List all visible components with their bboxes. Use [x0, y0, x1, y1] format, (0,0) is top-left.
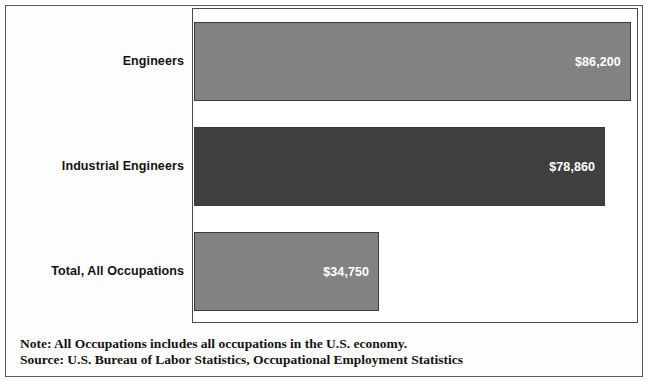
- bar-chart-figure: Engineers $86,200 Industrial Engineers $…: [0, 0, 648, 381]
- bar-engineers: $86,200: [194, 22, 631, 101]
- footnote-source: Source: U.S. Bureau of Labor Statistics,…: [20, 352, 630, 368]
- footnote-note: Note: All Occupations includes all occup…: [20, 336, 630, 352]
- category-label-industrial-engineers: Industrial Engineers: [62, 160, 184, 173]
- bar-value-label: $78,860: [549, 160, 595, 174]
- bar-total-all-occupations: $34,750: [194, 232, 379, 311]
- category-label-total-all-occupations: Total, All Occupations: [51, 265, 184, 278]
- category-label-engineers: Engineers: [123, 55, 184, 68]
- bar-row: Engineers $86,200: [193, 9, 637, 114]
- bar-row: Industrial Engineers $78,860: [193, 114, 637, 219]
- plot-area: Engineers $86,200 Industrial Engineers $…: [192, 8, 638, 323]
- bar-industrial-engineers: $78,860: [194, 127, 605, 206]
- bar-value-label: $34,750: [323, 265, 369, 279]
- footnotes: Note: All Occupations includes all occup…: [20, 336, 630, 367]
- bar-row: Total, All Occupations $34,750: [193, 219, 637, 324]
- bar-value-label: $86,200: [575, 55, 621, 69]
